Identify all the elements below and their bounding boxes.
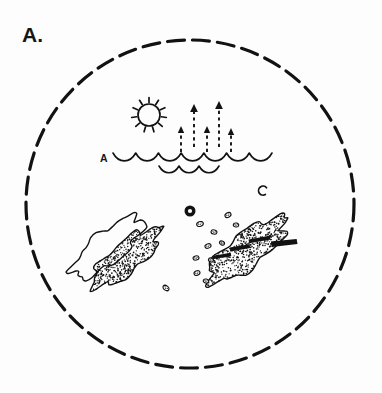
- stipple-dot: [113, 270, 114, 271]
- stipple-dot: [253, 250, 255, 252]
- stipple-dot: [235, 236, 237, 238]
- stipple-dot: [122, 242, 124, 244]
- stipple-dot: [236, 252, 238, 254]
- stipple-dot: [237, 260, 238, 261]
- stipple-dot: [139, 255, 140, 256]
- stipple-dot: [228, 247, 229, 248]
- stipple-dot: [126, 270, 127, 271]
- stipple-dot: [133, 234, 134, 235]
- stipple-dot: [257, 247, 258, 248]
- stipple-dot: [117, 262, 118, 263]
- stipple-dot: [246, 265, 247, 266]
- stipple-dot: [228, 251, 229, 252]
- stipple-dot: [123, 276, 125, 278]
- stipple-dot: [136, 234, 137, 235]
- stipple-dot: [152, 250, 154, 252]
- stipple-dot: [235, 274, 236, 275]
- stipple-dot: [120, 246, 121, 247]
- stipple-dot: [142, 240, 143, 241]
- stipple-dot: [252, 255, 253, 256]
- stipple-dot: [222, 267, 223, 268]
- stipple-dot: [95, 280, 96, 281]
- stipple-dot: [113, 281, 114, 282]
- stipple-dot: [111, 253, 112, 254]
- stipple-dot: [216, 275, 218, 277]
- stipple-dot: [218, 259, 219, 260]
- stipple-dot: [130, 241, 131, 242]
- stipple-dot: [250, 226, 251, 227]
- stipple-dot: [255, 230, 257, 232]
- stipple-dot: [123, 263, 124, 264]
- stipple-dot: [142, 247, 144, 249]
- stipple-dot: [217, 266, 219, 268]
- stipple-dot: [222, 252, 224, 254]
- stipple-dot: [280, 236, 282, 238]
- stipple-dot: [117, 257, 119, 259]
- stipple-dot: [118, 259, 119, 260]
- stipple-dot: [250, 260, 252, 262]
- stipple-dot: [98, 269, 100, 271]
- stipple-dot: [127, 268, 129, 270]
- stipple-dot: [257, 248, 258, 249]
- stipple-dot: [244, 237, 246, 239]
- stipple-dot: [237, 267, 239, 269]
- stipple-dot: [141, 256, 142, 257]
- stipple-dot: [244, 257, 246, 259]
- stipple-dot: [225, 274, 226, 275]
- stipple-dot: [245, 260, 246, 261]
- stipple-dot: [142, 238, 143, 239]
- figure-panel-a: A A.: [0, 0, 382, 393]
- stipple-dot: [212, 275, 214, 277]
- stipple-dot: [110, 275, 111, 276]
- stipple-dot: [110, 267, 112, 269]
- stipple-dot: [101, 278, 102, 279]
- stipple-dot: [256, 251, 258, 253]
- stipple-dot: [276, 240, 277, 241]
- stipple-dot: [241, 243, 243, 245]
- stipple-dot: [112, 267, 114, 269]
- stipple-dot: [252, 231, 253, 232]
- stipple-dot: [245, 251, 246, 252]
- stipple-dot: [227, 277, 229, 279]
- stipple-dot: [116, 279, 118, 281]
- stipple-dot: [243, 236, 245, 238]
- stipple-dot: [96, 275, 98, 277]
- stipple-dot: [233, 259, 234, 260]
- stipple-dot: [244, 230, 245, 231]
- stipple-dot: [120, 252, 121, 253]
- stipple-dot: [277, 227, 279, 229]
- stipple-dot: [214, 261, 215, 262]
- stipple-dot: [267, 228, 268, 229]
- stipple-dot: [154, 231, 155, 232]
- stipple-dot: [252, 262, 253, 263]
- stipple-dot: [125, 265, 126, 266]
- stipple-dot: [110, 257, 111, 258]
- stipple-dot: [108, 262, 109, 263]
- stipple-dot: [259, 242, 261, 244]
- stipple-dot: [283, 222, 284, 223]
- stipple-dot: [255, 225, 256, 226]
- stipple-dot: [127, 263, 128, 264]
- stipple-dot: [137, 239, 138, 240]
- stipple-dot: [226, 271, 227, 272]
- stipple-dot: [113, 257, 114, 258]
- stipple-dot: [142, 258, 143, 259]
- stipple-dot: [241, 261, 243, 263]
- stipple-dot: [101, 279, 102, 280]
- stipple-dot: [124, 260, 126, 262]
- stipple-dot: [220, 276, 221, 277]
- stipple-dot: [225, 275, 226, 276]
- stipple-dot: [134, 241, 136, 243]
- stipple-dot: [140, 243, 141, 244]
- stipple-dot: [247, 230, 249, 232]
- stipple-dot: [100, 276, 101, 277]
- stipple-dot: [150, 235, 152, 237]
- stipple-dot: [215, 273, 216, 274]
- stipple-dot: [237, 270, 238, 271]
- stipple-dot: [253, 224, 254, 225]
- stipple-dot: [154, 233, 156, 235]
- stipple-dot: [114, 267, 115, 268]
- stipple-dot: [234, 261, 235, 262]
- stipple-dot: [259, 244, 261, 246]
- stipple-dot: [118, 262, 120, 264]
